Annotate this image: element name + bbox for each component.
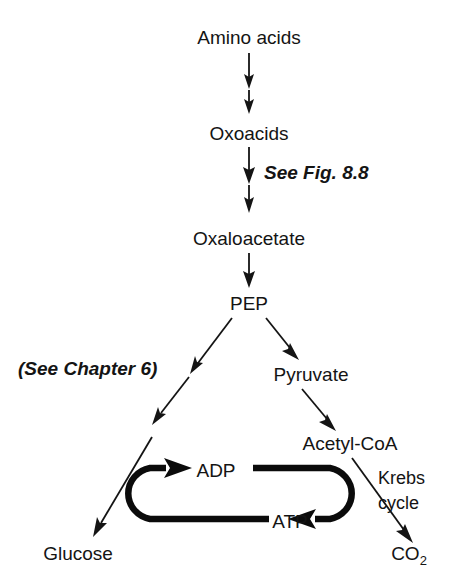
edge-oxaloacetate-to-pep	[243, 253, 255, 288]
node-adp: ADP	[196, 460, 235, 481]
node-oxoacids: Oxoacids	[209, 123, 288, 144]
edge-glucose-tail	[93, 437, 152, 537]
node-pyruvate: Pyruvate	[274, 364, 349, 385]
edge-amino-acids-to-oxoacids-1	[244, 53, 254, 89]
annotation-see-fig: See Fig. 8.8	[264, 162, 369, 183]
pathway-svg: Amino acids Oxoacids Oxaloacetate PEP Py…	[0, 0, 468, 588]
edge-oxoacids-to-oxaloacetate-1	[243, 147, 255, 184]
node-amino-acids: Amino acids	[197, 27, 301, 48]
node-co2: CO2	[391, 543, 427, 568]
edge-pyruvate-to-acetyl-coa	[302, 389, 336, 431]
node-oxaloacetate: Oxaloacetate	[193, 228, 305, 249]
edge-amino-acids-to-oxoacids-2	[244, 90, 254, 114]
pathway-diagram: Amino acids Oxoacids Oxaloacetate PEP Py…	[0, 0, 468, 588]
node-glucose: Glucose	[43, 543, 113, 564]
node-co2-subscript: 2	[420, 553, 427, 568]
node-atp: ATP	[272, 511, 308, 532]
edge-pep-to-pyruvate	[266, 318, 299, 360]
annotation-krebs-line1: Krebs	[378, 468, 425, 488]
node-acetyl-coa: Acetyl-CoA	[302, 433, 397, 454]
edge-pep-to-glucose-1	[190, 318, 232, 374]
annotation-see-chapter: (See Chapter 6)	[18, 358, 157, 379]
edge-pep-to-glucose-2	[152, 377, 189, 425]
node-co2-main: CO	[391, 543, 420, 564]
node-pep: PEP	[230, 293, 268, 314]
annotation-krebs-line2: cycle	[378, 493, 419, 513]
edge-oxoacids-to-oxaloacetate-2	[244, 185, 254, 213]
